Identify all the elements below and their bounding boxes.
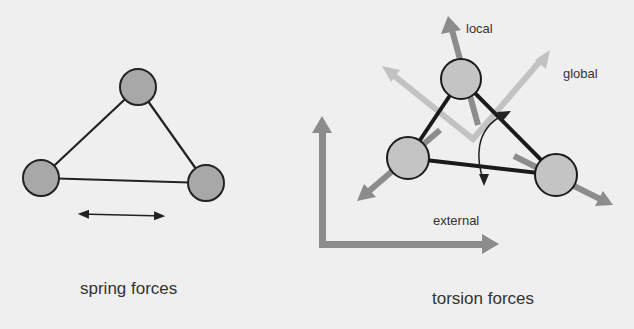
node-top [441, 59, 481, 99]
node-left [387, 137, 429, 179]
global-label: global [563, 66, 598, 81]
node-right [188, 165, 224, 201]
local-label: local [466, 21, 493, 36]
spring-forces-diagram [23, 69, 224, 216]
double-arrow-icon [80, 214, 163, 216]
node-right [535, 154, 577, 196]
spring-forces-caption: spring forces [80, 279, 177, 299]
edge-top-left [41, 87, 138, 178]
external-label: external [433, 213, 479, 228]
rotation-arrowhead-bottom [479, 174, 489, 186]
torsion-forces-caption: torsion forces [432, 289, 534, 309]
node-top [120, 69, 156, 105]
spring-edges [41, 87, 206, 183]
node-left [23, 160, 59, 196]
edge-left-right [41, 178, 206, 183]
